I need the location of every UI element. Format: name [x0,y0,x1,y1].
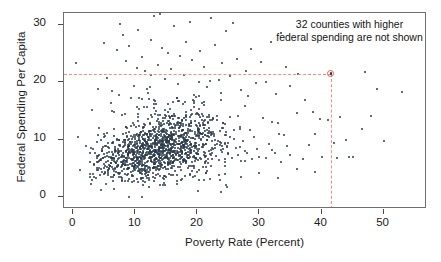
scatter-point [207,162,209,164]
scatter-point [133,180,135,182]
scatter-point [193,165,195,167]
scatter-point [213,135,215,137]
scatter-point [312,111,314,113]
scatter-point [159,114,161,116]
scatter-point [265,157,267,159]
scatter-point [117,148,119,150]
x-tick-label: 20 [176,216,216,228]
scatter-point [91,179,93,181]
scatter-point [116,49,118,51]
scatter-point [157,173,159,175]
scatter-point [107,160,109,162]
scatter-point [172,118,174,120]
scatter-point [153,99,155,101]
scatter-point [179,166,181,168]
scatter-point [107,172,109,174]
scatter-point [218,79,220,81]
scatter-point [143,106,145,108]
scatter-point [345,139,347,141]
scatter-point [194,138,196,140]
scatter-point [319,118,321,120]
scatter-point [314,171,316,173]
scatter-point [370,115,372,117]
scatter-point [150,39,152,41]
scatter-point [178,140,180,142]
scatter-point [302,158,304,160]
scatter-point [268,143,270,145]
scatter-point [199,50,201,52]
scatter-point [141,56,143,58]
scatter-point [136,133,138,135]
scatter-point [100,189,102,191]
scatter-point [188,148,190,150]
scatter-point [89,161,91,163]
scatter-point [180,163,182,165]
scatter-point [181,178,183,180]
scatter-point [208,136,210,138]
scatter-point [250,48,252,50]
scatter-point [167,111,169,113]
scatter-point [167,168,169,170]
scatter-point [277,177,279,179]
scatter-point [119,145,121,147]
x-tick-label: 10 [114,216,154,228]
scatter-point [136,67,138,69]
scatter-point [182,123,184,125]
scatter-point [154,163,156,165]
scatter-point [271,121,273,123]
scatter-point [200,158,202,160]
annotation-line-1: 32 counties with higher [262,18,437,31]
scatter-point [180,169,182,171]
y-tick-label: 20 [6,73,46,85]
x-tick-label: 30 [238,216,278,228]
scatter-point [224,165,226,167]
scatter-point [108,156,110,158]
scatter-point [208,116,210,118]
scatter-point [283,134,285,136]
scatter-point [195,96,197,98]
scatter-point [245,70,247,72]
scatter-point [194,120,196,122]
scatter-point [146,88,148,90]
scatter-point [114,168,116,170]
scatter-point [221,151,223,153]
scatter-point [222,148,224,150]
scatter-point [255,82,257,84]
scatter-point [112,180,114,182]
scatter-point [142,134,144,136]
scatter-point [118,94,120,96]
scatter-point [171,127,173,129]
scatter-point [136,152,138,154]
scatter-point [247,95,249,97]
scatter-point [95,177,97,179]
scatter-point [159,157,161,159]
scatter-point [123,139,125,141]
scatter-point [173,25,175,27]
scatter-point [285,66,287,68]
scatter-point [122,34,124,36]
scatter-point [127,180,129,182]
y-tick-label: 10 [6,131,46,143]
scatter-point [161,164,163,166]
scatter-point [204,134,206,136]
scatter-point [139,142,141,144]
scatter-point [197,150,199,152]
scatter-point [184,175,186,177]
scatter-point [162,167,164,169]
scatter-point [132,159,134,161]
scatter-point [106,132,108,134]
scatter-point [211,140,213,142]
scatter-point [133,124,135,126]
scatter-point [191,161,193,163]
scatter-point [253,136,255,138]
x-tick-mark [383,209,384,214]
scatter-point [274,152,276,154]
scatter-point [144,124,146,126]
scatter-point [144,181,146,183]
scatter-point [205,143,207,145]
scatter-point [376,88,378,90]
scatter-point [229,116,231,118]
scatter-point [142,184,144,186]
scatter-point [105,183,107,185]
scatter-point [191,59,193,61]
